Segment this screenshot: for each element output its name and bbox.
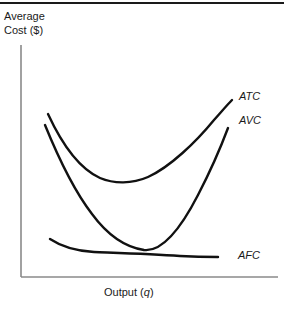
x-axis-label-text: Output (q) bbox=[104, 286, 154, 298]
x-axis-label: Output (q) bbox=[104, 286, 154, 300]
average-cost-curves-figure: AverageCost ($) ATC AVC AFC Output (q) bbox=[0, 0, 284, 309]
atc-curve-label: ATC bbox=[239, 90, 260, 102]
cost-curves-plot bbox=[0, 0, 284, 309]
avc-curve bbox=[45, 125, 228, 250]
afc-curve-label: AFC bbox=[238, 249, 260, 261]
atc-curve bbox=[48, 100, 232, 182]
avc-curve-label: AVC bbox=[239, 114, 261, 126]
